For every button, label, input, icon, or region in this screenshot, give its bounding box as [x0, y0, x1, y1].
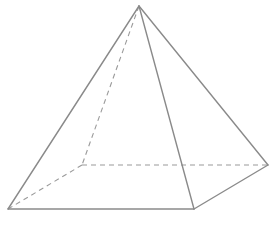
- hidden-edges: [8, 6, 268, 209]
- hidden-edge-base-back-left-to-base-front-left: [8, 165, 82, 209]
- edge-apex-to-base-front-left: [8, 6, 139, 209]
- pyramid-diagram: [0, 0, 277, 227]
- solid-edges: [8, 6, 268, 209]
- edge-base-front-right-to-base-back-right: [194, 165, 268, 209]
- edge-apex-to-base-front-right: [139, 6, 194, 209]
- edge-apex-to-base-back-right: [139, 6, 268, 165]
- hidden-edge-apex-to-base-back-left: [82, 6, 139, 165]
